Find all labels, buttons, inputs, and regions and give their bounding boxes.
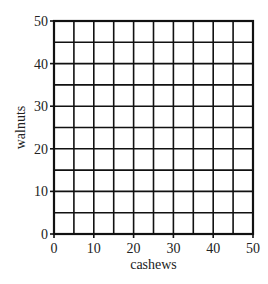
y-tick-label: 40: [34, 57, 48, 72]
y-tick-label: 10: [34, 184, 48, 199]
y-tick-label: 20: [34, 142, 48, 157]
y-axis-label: walnuts: [13, 106, 28, 150]
x-tick-label: 10: [87, 241, 101, 256]
x-tick-label: 0: [51, 241, 58, 256]
y-tick-label: 50: [34, 14, 48, 29]
x-tick-label: 20: [127, 241, 141, 256]
x-axis-ticks: 01020304050: [51, 234, 261, 256]
grid-lines: [54, 21, 253, 234]
x-tick-label: 50: [246, 241, 260, 256]
x-tick-label: 40: [206, 241, 220, 256]
chart: 01020304050 01020304050 cashews walnuts: [0, 0, 268, 284]
x-tick-label: 30: [166, 241, 180, 256]
y-tick-label: 0: [41, 227, 48, 242]
y-tick-label: 30: [34, 99, 48, 114]
x-axis-label: cashews: [130, 257, 177, 272]
y-axis-ticks: 01020304050: [34, 14, 54, 242]
